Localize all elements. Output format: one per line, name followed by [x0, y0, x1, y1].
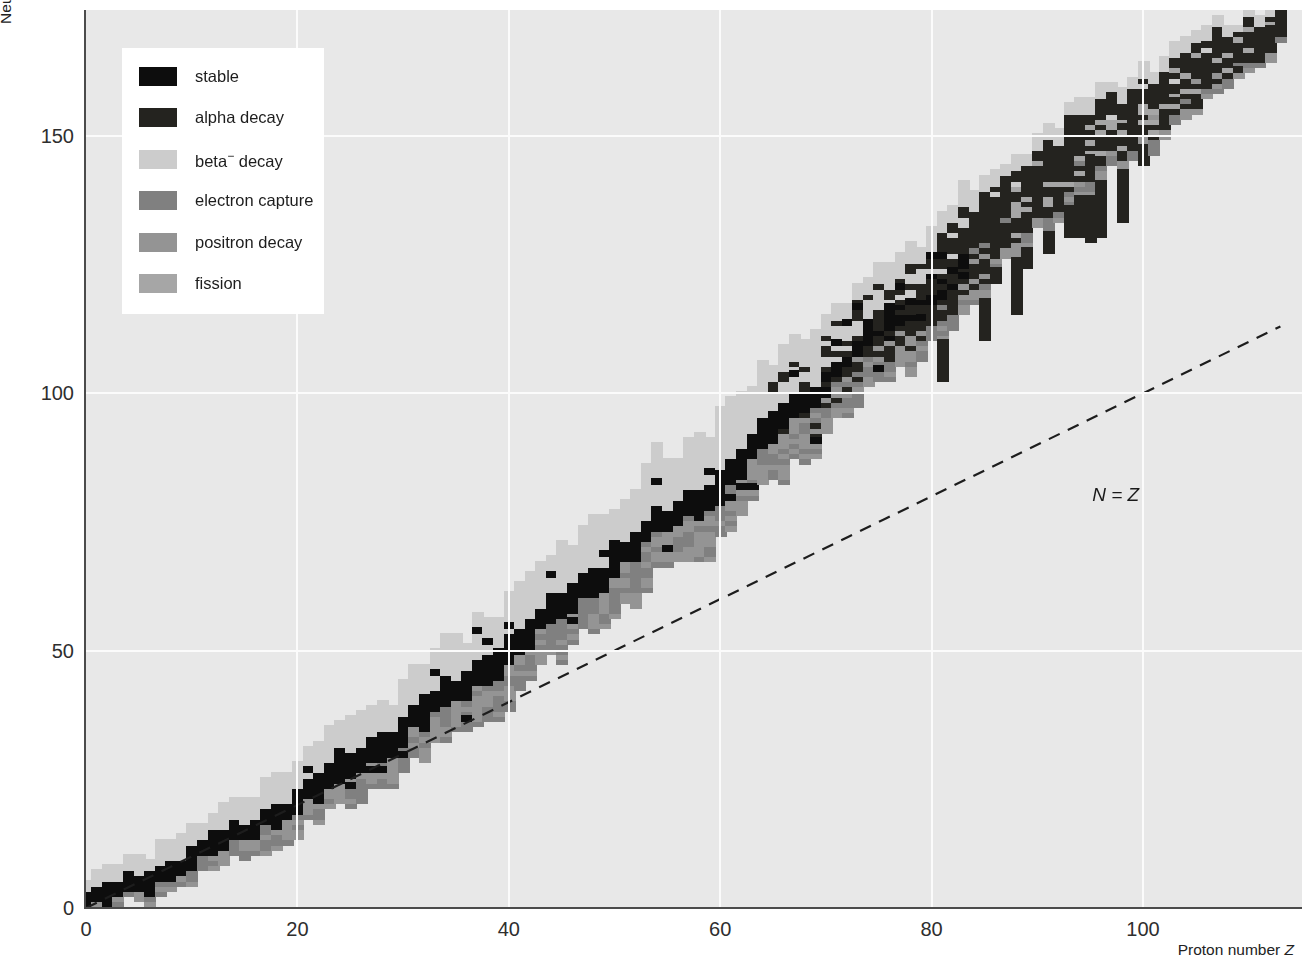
y-axis-title: Neutron number N: [0, 0, 15, 24]
nz-label-eq: =: [1106, 484, 1128, 505]
y-tick-label: 150: [8, 126, 74, 146]
gridline-vertical: [931, 10, 933, 908]
gridline-horizontal: [86, 650, 1302, 652]
legend-label-stable: stable: [195, 68, 239, 85]
x-axis-title-symbol: Z: [1285, 941, 1294, 958]
x-tick-label: 40: [469, 919, 549, 939]
nz-label-n: N: [1092, 484, 1106, 505]
legend-label-superscript: −: [227, 149, 234, 163]
x-axis-title: Proton number Z: [1178, 941, 1294, 959]
gridline-vertical: [508, 10, 510, 908]
y-tick-label: 100: [8, 383, 74, 403]
nuclide-chart-figure: N = Z 050100150 020406080100 Neutron num…: [0, 0, 1302, 977]
legend-swatch-stable: [139, 67, 177, 86]
legend-label-electron-capture: electron capture: [195, 192, 313, 209]
legend-swatch-alpha-decay: [139, 108, 177, 127]
gridline-vertical: [719, 10, 721, 908]
legend-item-fission: fission: [139, 271, 242, 297]
y-axis-line: [84, 10, 86, 909]
gridline-vertical: [1142, 10, 1144, 908]
legend-swatch-fission: [139, 274, 177, 293]
legend-item-stable: stable: [139, 63, 239, 89]
x-tick-label: 20: [257, 919, 337, 939]
x-axis-title-text: Proton number: [1178, 941, 1285, 958]
x-tick-label: 0: [46, 919, 126, 939]
legend-item-alpha-decay: alpha decay: [139, 105, 284, 131]
x-tick-label: 80: [892, 919, 972, 939]
legend-swatch-beta-minus-decay: [139, 150, 177, 169]
legend-label-fission: fission: [195, 275, 242, 292]
legend-swatch-positron-decay: [139, 233, 177, 252]
legend-label-alpha-decay: alpha decay: [195, 109, 284, 126]
legend: stablealpha decaybeta− decayelectron cap…: [122, 48, 324, 314]
y-axis-title-text: Neutron number: [0, 0, 14, 24]
x-axis-line: [84, 907, 1302, 909]
nz-label-z: Z: [1128, 484, 1140, 505]
legend-swatch-electron-capture: [139, 191, 177, 210]
y-tick-label: 0: [8, 898, 74, 918]
n-equals-z-label: N = Z: [1092, 484, 1139, 506]
legend-item-positron-decay: positron decay: [139, 229, 302, 255]
x-tick-label: 60: [680, 919, 760, 939]
legend-label-positron-decay: positron decay: [195, 234, 302, 251]
x-tick-label: 100: [1103, 919, 1183, 939]
y-tick-label: 50: [8, 641, 74, 661]
legend-item-beta-minus-decay: beta− decay: [139, 146, 283, 172]
legend-label-beta-minus-decay: beta− decay: [195, 150, 283, 169]
legend-item-electron-capture: electron capture: [139, 188, 313, 214]
gridline-horizontal: [86, 392, 1302, 394]
